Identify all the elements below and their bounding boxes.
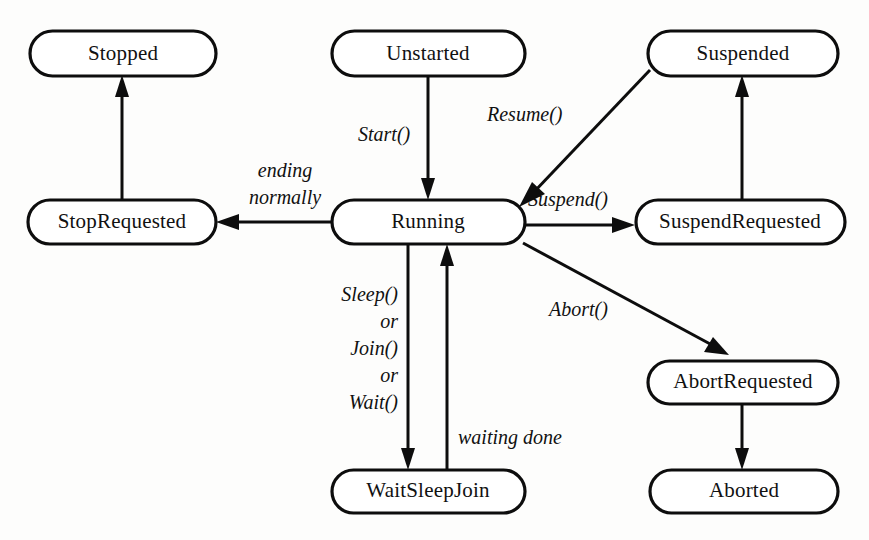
- state-node-suspended[interactable]: Suspended: [648, 31, 838, 76]
- edge-unstarted-to-running: Start(): [358, 76, 435, 200]
- thread-state-diagram: Start() ending normally Suspend() Resume…: [0, 0, 869, 540]
- arrowhead-icon: [440, 244, 454, 266]
- state-node-stoprequested[interactable]: StopRequested: [28, 200, 216, 244]
- state-node-abortrequested[interactable]: AbortRequested: [648, 361, 838, 404]
- edge-running-to-abortrequested: Abort(): [523, 243, 729, 355]
- state-node-label-stoprequested: StopRequested: [58, 209, 187, 233]
- arrowhead-icon: [704, 337, 729, 355]
- edge-label-sleep-line4: or: [380, 364, 398, 386]
- edge-waitsleepjoin-to-running: waiting done: [440, 244, 562, 469]
- state-node-label-abortrequested: AbortRequested: [673, 369, 813, 393]
- edge-label-sleep-line5: Wait(): [349, 391, 399, 414]
- arrowhead-icon: [735, 75, 749, 97]
- state-node-label-suspendrequested: SuspendRequested: [659, 209, 821, 233]
- edge-abortrequested-to-aborted: [735, 404, 749, 470]
- edge-running-to-stoprequested: ending normally: [216, 159, 331, 230]
- state-diagram-canvas: Start() ending normally Suspend() Resume…: [0, 0, 869, 540]
- state-node-label-suspended: Suspended: [697, 41, 790, 65]
- arrowhead-icon: [421, 178, 435, 200]
- arrowhead-icon: [115, 75, 129, 97]
- edge-suspendrequested-to-suspended: [735, 75, 749, 199]
- arrowhead-icon: [735, 448, 749, 470]
- state-node-label-stopped: Stopped: [88, 41, 159, 65]
- arrowhead-icon: [401, 448, 415, 470]
- state-node-stopped[interactable]: Stopped: [30, 31, 216, 76]
- edge-stoprequested-to-stopped: [115, 75, 129, 199]
- edge-label-ending-line2: normally: [249, 186, 321, 209]
- arrowhead-icon: [216, 214, 239, 230]
- edge-suspended-to-running: Resume(): [486, 70, 650, 207]
- state-node-waitsleepjoin[interactable]: WaitSleepJoin: [332, 470, 525, 513]
- edge-label-abort: Abort(): [547, 298, 608, 321]
- edge-running-to-waitsleepjoin: Sleep() or Join() or Wait(): [341, 244, 415, 470]
- edge-label-resume: Resume(): [486, 103, 563, 126]
- state-node-label-aborted: Aborted: [709, 478, 780, 502]
- edge-label-start: Start(): [358, 123, 411, 146]
- state-node-label-waitsleepjoin: WaitSleepJoin: [366, 478, 490, 502]
- edge-label-sleep-line1: Sleep(): [341, 283, 398, 306]
- state-node-suspendrequested[interactable]: SuspendRequested: [636, 200, 845, 244]
- edge-label-waiting-done: waiting done: [458, 426, 562, 449]
- edge-label-sleep-line3: Join(): [350, 337, 398, 360]
- edge-line: [533, 70, 650, 193]
- state-node-label-unstarted: Unstarted: [386, 41, 470, 65]
- state-node-running[interactable]: Running: [332, 200, 525, 244]
- edge-label-sleep-line2: or: [380, 310, 398, 332]
- edge-line: [523, 243, 712, 345]
- state-node-unstarted[interactable]: Unstarted: [332, 31, 525, 76]
- edge-label-ending-line1: ending: [258, 159, 312, 182]
- arrowhead-icon: [612, 217, 635, 233]
- state-node-label-running: Running: [391, 209, 465, 233]
- state-node-aborted[interactable]: Aborted: [650, 470, 838, 513]
